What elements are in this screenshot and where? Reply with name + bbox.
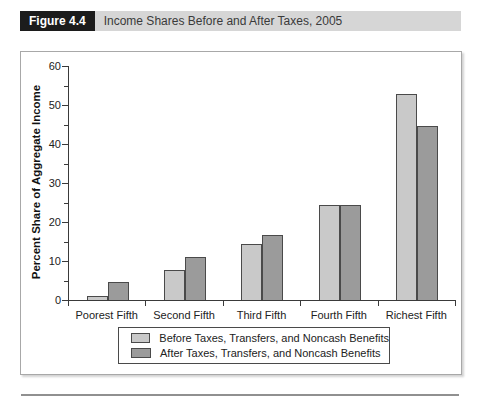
y-tick-mark <box>62 66 68 67</box>
legend-swatch-after <box>131 348 151 358</box>
figure-number-label: Figure 4.4 <box>20 11 95 31</box>
bar-group <box>146 66 223 300</box>
x-axis-label: Second Fifth <box>145 309 222 321</box>
bar-after-taxes <box>417 126 438 300</box>
bar-after-taxes <box>340 205 361 300</box>
bar-group <box>301 66 378 300</box>
x-axis-label: Fourth Fifth <box>300 309 377 321</box>
x-tick-mark <box>223 301 224 306</box>
x-tick-mark <box>378 301 379 306</box>
y-minor-tick-mark <box>64 203 68 204</box>
bar-group <box>69 66 146 300</box>
y-tick-label: 0 <box>31 294 61 307</box>
legend-label: After Taxes, Transfers, and Noncash Bene… <box>160 347 381 359</box>
bar-after-taxes <box>108 282 129 300</box>
x-tick-mark <box>145 301 146 306</box>
figure-header: Figure 4.4 Income Shares Before and Afte… <box>20 11 461 31</box>
y-tick-label: 40 <box>31 138 61 151</box>
x-tick-mark <box>300 301 301 306</box>
page: Figure 4.4 Income Shares Before and Afte… <box>0 0 481 404</box>
x-axis-label: Poorest Fifth <box>68 309 145 321</box>
plot-area <box>68 66 456 301</box>
x-axis-label: Richest Fifth <box>378 309 455 321</box>
x-axis-label: Third Fifth <box>223 309 300 321</box>
y-tick-label: 50 <box>31 99 61 112</box>
y-tick-mark <box>62 222 68 223</box>
y-minor-tick-mark <box>64 281 68 282</box>
y-minor-tick-mark <box>64 125 68 126</box>
legend-item: Before Taxes, Transfers, and Noncash Ben… <box>131 332 389 344</box>
y-tick-mark <box>62 261 68 262</box>
y-minor-tick-mark <box>64 86 68 87</box>
y-minor-tick-mark <box>64 164 68 165</box>
bar-before-taxes <box>241 244 262 300</box>
y-tick-label: 20 <box>31 216 61 229</box>
y-tick-mark <box>62 105 68 106</box>
legend-item: After Taxes, Transfers, and Noncash Bene… <box>131 347 389 359</box>
y-tick-mark <box>62 183 68 184</box>
legend-swatch-before <box>131 333 150 343</box>
bar-before-taxes <box>396 94 417 300</box>
bottom-rule <box>21 394 459 396</box>
bar-group <box>224 66 301 300</box>
bar-group <box>379 66 456 300</box>
y-tick-label: 30 <box>31 177 61 190</box>
bar-after-taxes <box>185 257 206 300</box>
bar-after-taxes <box>262 235 283 300</box>
bar-before-taxes <box>87 296 108 300</box>
x-tick-mark <box>68 301 69 306</box>
y-tick-label: 10 <box>31 255 61 268</box>
y-tick-mark <box>62 144 68 145</box>
chart-panel: Percent Share of Aggregate Income 010203… <box>20 51 462 375</box>
bar-before-taxes <box>164 270 185 300</box>
legend: Before Taxes, Transfers, and Noncash Ben… <box>118 327 390 364</box>
y-minor-tick-mark <box>64 242 68 243</box>
x-tick-mark <box>455 301 456 306</box>
legend-label: Before Taxes, Transfers, and Noncash Ben… <box>159 332 389 344</box>
figure-title: Income Shares Before and After Taxes, 20… <box>95 11 461 31</box>
bar-before-taxes <box>319 205 340 300</box>
y-tick-label: 60 <box>31 60 61 73</box>
